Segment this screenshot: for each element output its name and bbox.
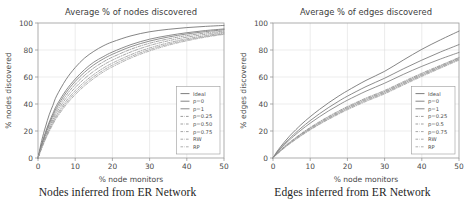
x-tick-label: 0 <box>36 162 41 171</box>
x-tick-label: 40 <box>417 162 427 171</box>
chart-nodes: Average % of nodes discovered01020304050… <box>0 0 235 186</box>
legend-label: p=1 <box>193 106 204 113</box>
x-axis-label: % node monitors <box>99 175 164 184</box>
legend-label: Ideal <box>193 91 206 97</box>
caption-nodes: Nodes inferred from ER Network <box>0 186 235 198</box>
legend-label: p=0.75 <box>428 129 447 136</box>
x-tick-label: 20 <box>108 162 118 171</box>
legend-label: p=0.75 <box>193 129 212 136</box>
legend-label: RP <box>428 144 435 150</box>
legend-label: p=1 <box>428 106 439 113</box>
panel-edges: Average % of edges discovered01020304050… <box>235 0 470 218</box>
y-tick-label: 20 <box>259 127 269 136</box>
figure-container: Average % of nodes discovered01020304050… <box>0 0 470 218</box>
legend-label: p=0 <box>428 98 439 105</box>
y-tick-label: 40 <box>259 100 269 109</box>
plot-title: Average % of edges discovered <box>300 7 432 17</box>
y-tick-label: 20 <box>24 127 34 136</box>
legend-label: p=0.50 <box>193 121 212 128</box>
legend-label: p=0.5 <box>428 121 444 128</box>
y-tick-label: 80 <box>24 46 34 55</box>
legend-label: p=0.25 <box>193 113 212 120</box>
legend-label: RW <box>428 136 437 142</box>
x-tick-label: 30 <box>145 162 155 171</box>
x-tick-label: 10 <box>305 162 315 171</box>
chart-nodes-svg: Average % of nodes discovered01020304050… <box>0 0 235 186</box>
legend-label: p=0 <box>193 98 204 105</box>
x-tick-label: 20 <box>343 162 353 171</box>
y-tick-label: 60 <box>259 73 269 82</box>
x-tick-label: 0 <box>271 162 276 171</box>
y-axis-label: % edges discovered <box>239 52 248 128</box>
y-tick-label: 60 <box>24 73 34 82</box>
legend-label: p=0.25 <box>428 113 447 120</box>
y-tick-label: 40 <box>24 100 34 109</box>
y-tick-label: 80 <box>259 46 269 55</box>
caption-edges: Edges inferred from ER Network <box>235 186 470 198</box>
panel-nodes: Average % of nodes discovered01020304050… <box>0 0 235 218</box>
y-tick-label: 100 <box>254 19 268 28</box>
x-tick-label: 50 <box>219 162 229 171</box>
y-tick-label: 0 <box>263 154 268 163</box>
x-tick-label: 30 <box>380 162 390 171</box>
chart-edges: Average % of edges discovered01020304050… <box>235 0 470 186</box>
y-tick-label: 100 <box>19 19 33 28</box>
legend-label: RW <box>193 136 202 142</box>
y-tick-label: 0 <box>28 154 33 163</box>
legend-label: Ideal <box>428 91 441 97</box>
y-axis-label: % nodes discovered <box>4 52 13 128</box>
chart-edges-svg: Average % of edges discovered01020304050… <box>235 0 470 186</box>
plot-title: Average % of nodes discovered <box>65 7 197 17</box>
legend-label: RP <box>193 144 200 150</box>
x-tick-label: 10 <box>70 162 80 171</box>
x-tick-label: 40 <box>182 162 192 171</box>
x-tick-label: 50 <box>454 162 464 171</box>
x-axis-label: % node monitors <box>334 175 399 184</box>
